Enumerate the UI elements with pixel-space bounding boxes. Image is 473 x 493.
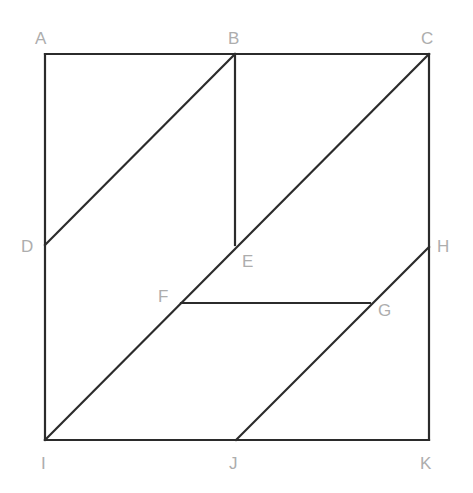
vertex-label-a: A <box>35 30 46 47</box>
vertex-label-f: F <box>158 288 168 305</box>
vertex-label-k: K <box>420 455 431 472</box>
geometry-canvas <box>0 0 473 493</box>
vertex-label-d: D <box>21 238 33 255</box>
geometry-figure: ABCDEFGHIJK <box>0 0 473 493</box>
segment-JH <box>236 247 429 440</box>
segment-IC <box>45 54 429 440</box>
vertex-label-g: G <box>378 302 391 319</box>
segment-DB <box>45 54 235 245</box>
vertex-label-j: J <box>229 455 238 472</box>
vertex-label-e: E <box>242 253 253 270</box>
vertex-label-h: H <box>437 238 449 255</box>
segments-group <box>45 54 429 440</box>
vertex-label-c: C <box>421 30 433 47</box>
vertex-label-i: I <box>41 455 46 472</box>
vertex-label-b: B <box>228 30 239 47</box>
